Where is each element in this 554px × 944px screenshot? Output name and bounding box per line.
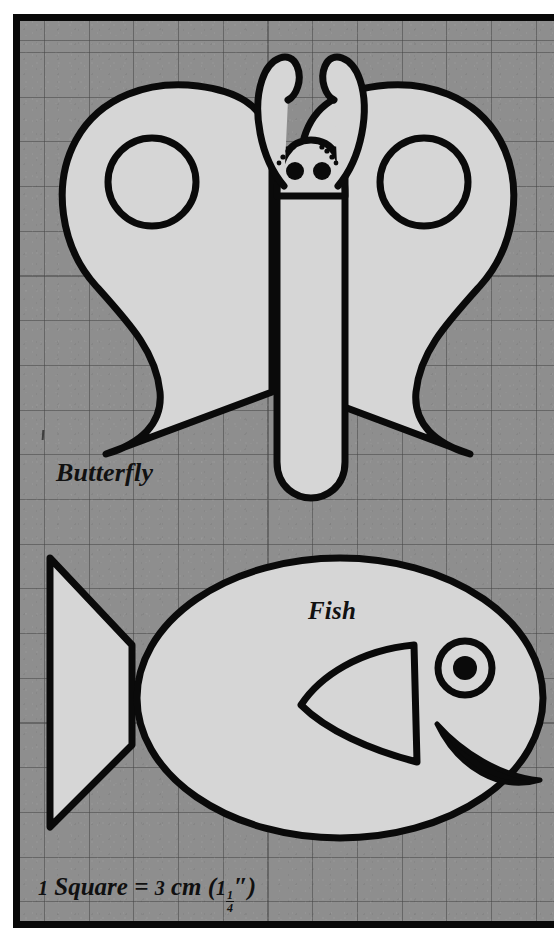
butterfly-left-eye xyxy=(286,162,304,180)
scale-equals: = xyxy=(134,873,148,900)
scale-caption: 1 Square = 3 cm (114″) xyxy=(38,873,256,914)
butterfly-left-wing-circle xyxy=(108,138,196,226)
scale-imperial-whole: 1 xyxy=(216,877,226,899)
scale-imperial-fraction: 14 xyxy=(226,889,234,914)
butterfly-body xyxy=(277,150,345,498)
scale-unit-word: Square xyxy=(54,873,128,900)
pattern-sheet: Butterfly Fish 1 Square = 3 cm (114″) xyxy=(0,0,554,944)
scale-paren-close: ) xyxy=(248,873,256,900)
butterfly-label: Butterfly xyxy=(56,458,153,488)
fish-eye-pupil xyxy=(453,656,477,680)
fish-label: Fish xyxy=(308,597,356,625)
scale-metric-unit: cm xyxy=(171,873,202,900)
fraction-numerator: 1 xyxy=(226,889,234,902)
scale-inch-mark: ″ xyxy=(234,873,248,900)
fish-tail xyxy=(50,558,132,827)
scale-quantity: 1 xyxy=(38,877,48,899)
scale-metric-value: 3 xyxy=(155,877,165,899)
butterfly-right-wing-circle xyxy=(380,138,468,226)
butterfly-right-eye xyxy=(313,162,331,180)
fraction-denominator: 4 xyxy=(226,902,234,914)
scale-paren-open: ( xyxy=(208,873,216,900)
